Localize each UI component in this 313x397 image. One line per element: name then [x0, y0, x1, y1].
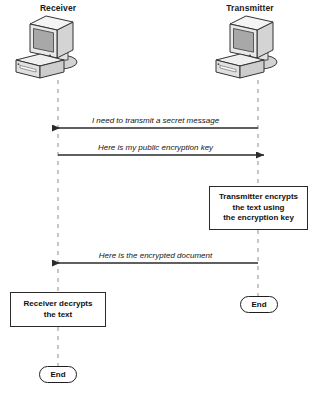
actor-label-transmitter: Transmitter [205, 3, 295, 13]
message-label-public-key: Here is my public encryption key [48, 143, 263, 152]
desktop-computer-icon-transmitter [216, 16, 277, 78]
sequence-diagram: Receiver Transmitter I need to transmit … [0, 0, 313, 397]
message-label-secret-message: I need to transmit a secret message [48, 116, 263, 125]
process-box-transmitter-encrypts: Transmitter encrypts the text using the … [209, 186, 308, 230]
process-box-line: Receiver decrypts [24, 299, 93, 310]
terminator-transmitter-end: End [240, 296, 278, 313]
process-box-receiver-decrypts: Receiver decrypts the text [10, 292, 106, 327]
actor-label-receiver: Receiver [18, 3, 98, 13]
process-box-line: the encryption key [223, 213, 294, 224]
process-box-line: the text using [232, 203, 284, 214]
message-label-encrypted-document: Here is the encrypted document [48, 251, 263, 260]
desktop-computer-icon-receiver [16, 16, 77, 78]
terminator-receiver-end: End [39, 366, 77, 383]
process-box-line: the text [44, 310, 72, 321]
process-box-line: Transmitter encrypts [219, 192, 298, 203]
